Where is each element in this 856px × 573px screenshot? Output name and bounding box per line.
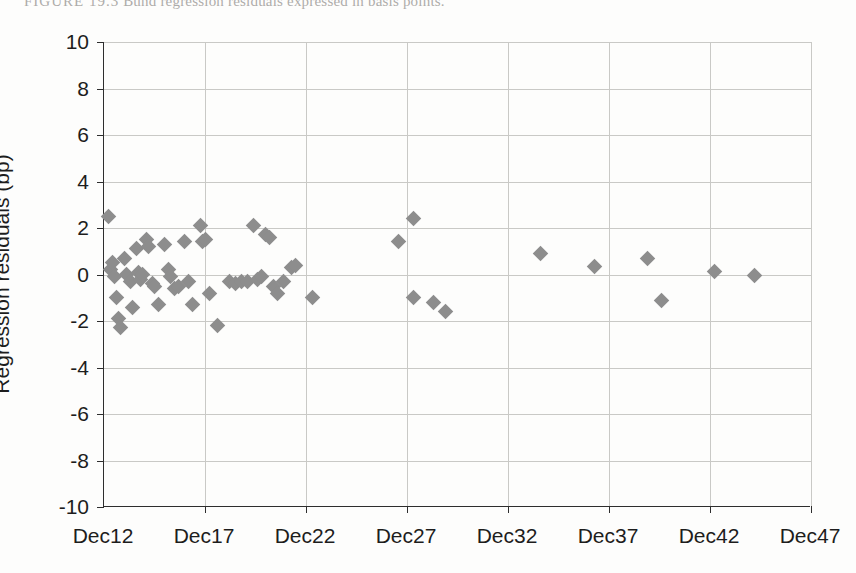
gridline-horizontal bbox=[104, 275, 811, 276]
x-axis-tick bbox=[609, 506, 610, 513]
gridline-horizontal bbox=[104, 135, 811, 136]
y-axis-tick bbox=[97, 414, 104, 415]
gridline-vertical bbox=[306, 42, 307, 507]
y-axis-title: Regression residuals (bp) bbox=[0, 104, 14, 444]
scatter-chart: Regression residuals (bp) 1086420-2-4-6-… bbox=[0, 0, 856, 573]
x-axis-tick bbox=[306, 506, 307, 513]
y-axis-tick bbox=[97, 507, 104, 508]
y-axis-tick bbox=[97, 42, 104, 43]
gridline-vertical bbox=[205, 42, 206, 507]
y-axis-tick bbox=[97, 135, 104, 136]
gridline-horizontal bbox=[104, 89, 811, 90]
y-axis-tick bbox=[97, 461, 104, 462]
y-axis-tick-label: 4 bbox=[43, 171, 89, 192]
y-axis-tick-label: -10 bbox=[43, 496, 89, 517]
y-axis-tick bbox=[97, 368, 104, 369]
x-axis-tick bbox=[407, 506, 408, 513]
data-point bbox=[438, 304, 454, 320]
data-point bbox=[425, 295, 441, 311]
data-point bbox=[587, 259, 603, 275]
gridline-horizontal bbox=[104, 368, 811, 369]
data-point bbox=[654, 292, 670, 308]
gridline-horizontal bbox=[104, 414, 811, 415]
gridline-horizontal bbox=[104, 461, 811, 462]
y-axis-tick bbox=[97, 228, 104, 229]
y-axis-tick-label: -4 bbox=[43, 357, 89, 378]
data-point bbox=[533, 246, 549, 262]
gridline-horizontal bbox=[104, 228, 811, 229]
gridline-vertical bbox=[407, 42, 408, 507]
x-axis-tick bbox=[710, 506, 711, 513]
x-axis-tick bbox=[508, 506, 509, 513]
data-point bbox=[124, 299, 140, 315]
gridline-vertical bbox=[811, 42, 812, 507]
x-axis-tick-label: Dec47 bbox=[750, 525, 856, 546]
y-axis-tick-label: -2 bbox=[43, 310, 89, 331]
gridline-vertical bbox=[508, 42, 509, 507]
y-axis-tick-label: 2 bbox=[43, 217, 89, 238]
data-point bbox=[747, 268, 763, 284]
data-point bbox=[157, 236, 173, 252]
gridline-vertical bbox=[609, 42, 610, 507]
data-point bbox=[151, 297, 167, 313]
data-point bbox=[391, 234, 407, 250]
x-axis-tick bbox=[811, 506, 812, 513]
y-axis-tick-label: 0 bbox=[43, 264, 89, 285]
gridline-horizontal bbox=[104, 321, 811, 322]
data-point bbox=[185, 297, 201, 313]
data-point bbox=[640, 250, 656, 266]
x-axis-tick bbox=[205, 506, 206, 513]
data-point bbox=[100, 209, 116, 225]
y-axis-tick-label: -8 bbox=[43, 450, 89, 471]
y-axis-tick-label: 6 bbox=[43, 124, 89, 145]
data-point bbox=[706, 263, 722, 279]
data-point bbox=[201, 285, 217, 301]
gridline-horizontal bbox=[104, 42, 811, 43]
data-point bbox=[193, 218, 209, 234]
y-axis-tick bbox=[97, 321, 104, 322]
plot-area bbox=[103, 42, 810, 507]
y-axis-tick bbox=[97, 275, 104, 276]
data-point bbox=[108, 290, 124, 306]
data-point bbox=[177, 234, 193, 250]
gridline-horizontal bbox=[104, 182, 811, 183]
y-axis-tick-label: 10 bbox=[43, 31, 89, 52]
y-axis-tick-label: 8 bbox=[43, 78, 89, 99]
y-axis-tick bbox=[97, 89, 104, 90]
data-point bbox=[246, 218, 262, 234]
y-axis-tick-label: -6 bbox=[43, 403, 89, 424]
y-axis-tick bbox=[97, 182, 104, 183]
